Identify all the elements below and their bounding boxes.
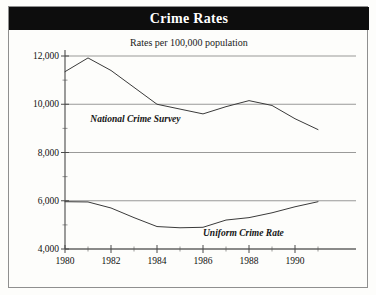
series-label-national-crime-survey: National Crime Survey: [90, 114, 180, 124]
series-label-uniform-crime-rate: Uniform Crime Rate: [203, 228, 284, 238]
gridlines-group: [65, 56, 356, 249]
x-axis-label-1980: 1980: [45, 256, 85, 266]
series-line-uniform-crime-rate: [65, 202, 318, 228]
figure-frame: Crime Rates Rates per 100,000 population…: [8, 6, 368, 288]
crime-rates-figure: Crime Rates Rates per 100,000 population…: [0, 0, 376, 295]
y-axis-label-6000: 6,000: [15, 196, 59, 206]
y-axis-label-8000: 8,000: [15, 148, 59, 158]
axis-ticks-group: [61, 56, 318, 253]
chart-plot-area: [9, 7, 369, 289]
data-series-group: [65, 58, 318, 228]
y-axis-label-4000: 4,000: [15, 244, 59, 254]
x-axis-label-1984: 1984: [137, 256, 177, 266]
x-axis-label-1982: 1982: [91, 256, 131, 266]
x-axis-label-1990: 1990: [275, 256, 315, 266]
x-axis-label-1986: 1986: [183, 256, 223, 266]
y-axis-label-10000: 10,000: [15, 99, 59, 109]
x-axis-label-1988: 1988: [229, 256, 269, 266]
y-axis-label-12000: 12,000: [15, 51, 59, 61]
axis-lines-group: [65, 50, 356, 249]
